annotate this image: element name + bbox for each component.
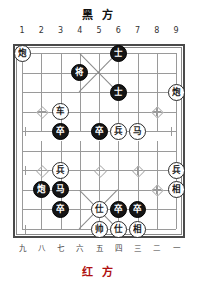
file-label-top-6: 6 — [111, 26, 125, 35]
file-label-bottom-2: 八 — [34, 242, 48, 253]
piece-red-马-f7r4[interactable]: 马 — [129, 123, 146, 140]
file-label-bottom-7: 三 — [131, 242, 145, 253]
piece-char: 将 — [75, 68, 84, 77]
file-label-top-5: 5 — [92, 26, 106, 35]
piece-char: 车 — [56, 107, 65, 116]
piece-black-士-f6r0[interactable]: 士 — [110, 45, 127, 62]
file-label-top-4: 4 — [73, 26, 87, 35]
piece-char: 卒 — [133, 205, 142, 214]
file-label-bottom-3: 七 — [54, 242, 68, 253]
piece-red-相-f7r9[interactable]: 相 — [129, 221, 146, 238]
piece-char: 马 — [133, 127, 142, 136]
piece-char: 炮 — [172, 88, 181, 97]
piece-char: 卒 — [95, 127, 104, 136]
piece-red-仕-f5r8[interactable]: 仕 — [91, 201, 108, 218]
file-line-7-top — [138, 53, 139, 132]
piece-red-兵-f9r6[interactable]: 兵 — [168, 162, 185, 179]
piece-char: 士 — [114, 88, 123, 97]
file-line-8-top — [157, 53, 158, 132]
top-side-title: 黑 方 — [0, 6, 198, 22]
piece-black-卒-f6r8[interactable]: 卒 — [110, 201, 127, 218]
file-label-bottom-8: 二 — [150, 242, 164, 253]
piece-red-帅-f5r9[interactable]: 帅 — [91, 221, 108, 238]
piece-char: 卒 — [114, 205, 123, 214]
piece-red-炮-f9r2[interactable]: 炮 — [168, 84, 185, 101]
piece-char: 兵 — [56, 166, 65, 175]
piece-black-卒-f7r8[interactable]: 卒 — [129, 201, 146, 218]
piece-black-士-f6r2[interactable]: 士 — [110, 84, 127, 101]
edge-mark-1-6 — [23, 166, 29, 175]
file-label-top-2: 2 — [34, 26, 48, 35]
piece-char: 马 — [56, 186, 65, 195]
xiangqi-diagram: 黑 方 123456789 炮士将士炮车卒卒兵马兵兵炮马相卒仕卒卒帅仕相 九八七… — [0, 0, 198, 283]
piece-char: 卒 — [56, 127, 65, 136]
file-label-bottom-6: 四 — [111, 242, 125, 253]
piece-char: 炮 — [37, 186, 46, 195]
star-point-5-6 — [95, 166, 104, 175]
piece-red-兵-f3r6[interactable]: 兵 — [52, 162, 69, 179]
file-axis-top: 123456789 — [0, 26, 198, 38]
edge-mark-1-9 — [23, 225, 29, 234]
file-line-1 — [22, 53, 23, 229]
piece-char: 兵 — [172, 166, 181, 175]
piece-black-卒-f5r4[interactable]: 卒 — [91, 123, 108, 140]
file-label-bottom-1: 九 — [15, 242, 29, 253]
file-line-2-top — [41, 53, 42, 132]
piece-black-卒-f3r8[interactable]: 卒 — [52, 201, 69, 218]
piece-char: 帅 — [95, 225, 104, 234]
star-point-7-6 — [133, 166, 142, 175]
piece-char: 仕 — [95, 205, 104, 214]
edge-mark-9-4 — [169, 127, 175, 136]
file-label-top-8: 8 — [150, 26, 164, 35]
star-point-8-3 — [152, 107, 161, 116]
file-label-top-7: 7 — [131, 26, 145, 35]
piece-black-炮-f2r7[interactable]: 炮 — [33, 181, 50, 198]
edge-mark-1-4 — [23, 127, 29, 136]
file-label-bottom-5: 五 — [92, 242, 106, 253]
piece-char: 仕 — [114, 225, 123, 234]
piece-char: 卒 — [56, 205, 65, 214]
piece-char: 炮 — [18, 49, 27, 58]
file-line-3-top — [61, 53, 62, 132]
file-label-bottom-4: 六 — [73, 242, 87, 253]
piece-char: 相 — [172, 186, 181, 195]
bottom-side-title: 红 方 — [0, 263, 198, 279]
file-axis-bottom: 九八七六五四三二一 — [0, 242, 198, 254]
star-point-2-6 — [37, 166, 46, 175]
file-line-5-top — [99, 53, 100, 132]
piece-char: 兵 — [114, 127, 123, 136]
piece-char: 士 — [114, 49, 123, 58]
file-label-top-9: 9 — [169, 26, 183, 35]
file-line-9 — [176, 53, 177, 229]
star-point-2-3 — [37, 107, 46, 116]
xiangqi-board[interactable]: 炮士将士炮车卒卒兵马兵兵炮马相卒仕卒卒帅仕相 — [13, 44, 185, 238]
piece-black-卒-f3r4[interactable]: 卒 — [52, 123, 69, 140]
file-label-bottom-9: 一 — [169, 242, 183, 253]
piece-red-仕-f6r9[interactable]: 仕 — [110, 221, 127, 238]
star-point-8-7 — [152, 185, 161, 194]
piece-red-兵-f6r4[interactable]: 兵 — [110, 123, 127, 140]
piece-red-炮-f1r0[interactable]: 炮 — [14, 45, 31, 62]
file-line-4-bottom — [80, 141, 81, 229]
file-label-top-1: 1 — [15, 26, 29, 35]
piece-red-相-f9r7[interactable]: 相 — [168, 181, 185, 198]
piece-char: 相 — [133, 225, 142, 234]
file-label-top-3: 3 — [54, 26, 68, 35]
